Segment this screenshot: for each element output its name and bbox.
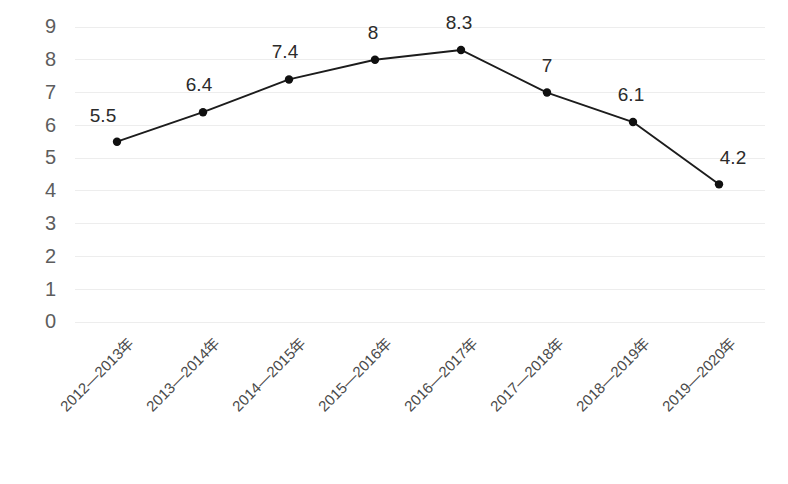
series-line-group: [117, 50, 719, 184]
data-point-label: 6.4: [186, 74, 213, 95]
series-markers-group: [113, 46, 723, 189]
data-point-label: 7.4: [272, 41, 299, 62]
x-axis-tick-label: 2014—2015年: [229, 334, 309, 414]
data-point-label: 8.3: [446, 12, 472, 33]
x-axis-tick-label: 2017—2018年: [487, 334, 567, 414]
x-axis-tick-label: 2013—2014年: [143, 334, 223, 414]
x-axis-tick-label: 2019—2020年: [659, 334, 739, 414]
data-point-marker: [629, 118, 637, 126]
y-axis-tick-label: 7: [45, 81, 56, 103]
y-axis-tick-label: 5: [45, 146, 56, 168]
data-point-label: 7: [542, 55, 553, 76]
y-axis-tick-label: 4: [45, 179, 56, 201]
line-chart: 0123456789 2012—2013年2013—2014年2014—2015…: [0, 0, 788, 484]
data-labels-group: 5.56.47.488.376.14.2: [90, 12, 746, 168]
data-point-marker: [715, 180, 723, 188]
x-axis-tick-labels: 2012—2013年2013—2014年2014—2015年2015—2016年…: [57, 334, 739, 414]
data-point-label: 5.5: [90, 105, 116, 126]
data-point-label: 8: [368, 22, 379, 43]
x-axis-tick-label: 2015—2016年: [315, 334, 395, 414]
y-axis-tick-label: 6: [45, 114, 56, 136]
gridlines-group: [75, 27, 765, 322]
data-point-marker: [457, 46, 465, 54]
y-axis-tick-label: 1: [45, 278, 56, 300]
data-point-marker: [285, 75, 293, 83]
y-axis-tick-label: 3: [45, 212, 56, 234]
data-point-label: 6.1: [618, 84, 644, 105]
y-axis-tick-label: 0: [45, 310, 56, 332]
y-axis-tick-label: 9: [45, 15, 56, 37]
x-axis-tick-label: 2016—2017年: [401, 334, 481, 414]
series-polyline: [117, 50, 719, 184]
y-axis-tick-label: 8: [45, 48, 56, 70]
data-point-marker: [543, 88, 551, 96]
cropped-footer-text: [186, 472, 616, 484]
data-point-marker: [113, 138, 121, 146]
data-point-marker: [371, 56, 379, 64]
y-axis-tick-labels: 0123456789: [45, 15, 56, 332]
data-point-marker: [199, 108, 207, 116]
x-axis-tick-label: 2012—2013年: [57, 334, 137, 414]
x-axis-tick-label: 2018—2019年: [573, 334, 653, 414]
y-axis-tick-label: 2: [45, 245, 56, 267]
data-point-label: 4.2: [720, 147, 746, 168]
chart-canvas: 0123456789 2012—2013年2013—2014年2014—2015…: [0, 0, 788, 484]
